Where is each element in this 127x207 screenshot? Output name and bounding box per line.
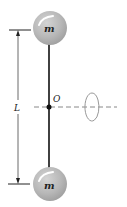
length-label: L	[13, 103, 20, 113]
pivot-point	[47, 105, 52, 110]
top-mass-label: m	[44, 23, 55, 34]
dumbbell-diagram: O L m m	[0, 0, 127, 207]
arrowhead-down-icon	[16, 178, 20, 184]
pivot-label: O	[53, 94, 61, 104]
arrowhead-up-icon	[16, 30, 20, 36]
bottom-mass-label: m	[44, 180, 55, 191]
